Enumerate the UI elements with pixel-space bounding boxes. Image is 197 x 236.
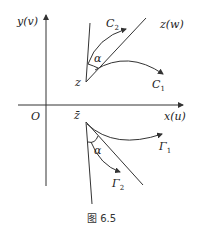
- curve-gamma2-label: Γ2: [111, 177, 124, 192]
- curve-gamma1-label: Γ1: [158, 140, 171, 155]
- angle-alpha-lower: α: [94, 144, 102, 157]
- x-axis-label: x(u): [164, 110, 186, 123]
- tangent-line-gamma2: [86, 122, 92, 204]
- tangent-line-c2: [86, 23, 90, 82]
- origin-label: O: [31, 110, 40, 123]
- angle-arc-lower: [88, 136, 98, 142]
- conformal-mapping-diagram: y(v) O x(u) z α z(w) C2 C1 z̄ α Γ1 Γ2 图 …: [0, 0, 197, 236]
- point-z-label: z: [74, 76, 81, 89]
- curve-gamma1: [87, 124, 162, 140]
- point-zbar-label: z̄: [73, 109, 80, 122]
- figure-caption: 图 6.5: [87, 213, 116, 224]
- angle-alpha-upper: α: [94, 52, 102, 65]
- y-axis-label: y(v): [16, 15, 38, 28]
- plane-label-w: z(w): [159, 18, 184, 31]
- curve-c2-label: C2: [106, 17, 119, 32]
- curve-c1-label: C1: [152, 78, 165, 93]
- curve-c1: [95, 61, 163, 74]
